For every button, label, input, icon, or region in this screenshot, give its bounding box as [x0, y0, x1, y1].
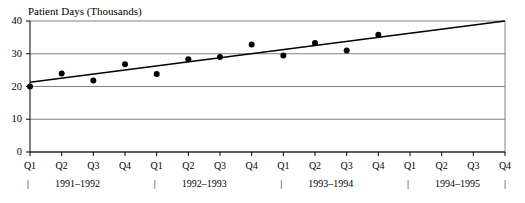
- x-tick-label: Q3: [461, 161, 485, 171]
- x-tick-label: Q4: [113, 161, 137, 171]
- year-group-separator: |: [405, 179, 411, 189]
- data-point: [154, 71, 160, 77]
- year-group-separator: |: [502, 179, 508, 189]
- data-point: [249, 42, 255, 48]
- year-group-label: 1994–1995: [418, 179, 498, 189]
- y-tick-label: 40: [0, 16, 22, 27]
- x-tick-label: Q2: [176, 161, 200, 171]
- data-point: [344, 47, 350, 53]
- x-tick-label: Q4: [366, 161, 390, 171]
- x-tick-label: Q2: [303, 161, 327, 171]
- trendline: [30, 21, 505, 82]
- trendline-segment: [30, 21, 505, 82]
- x-tick-label: Q3: [335, 161, 359, 171]
- gridlines-group: [30, 21, 505, 152]
- year-group-label: 1992–1993: [164, 179, 244, 189]
- data-points: [27, 32, 381, 90]
- chart-figure: Patient Days (Thousands) 010203040 Q1Q2Q…: [0, 0, 525, 203]
- x-tick-label: Q1: [145, 161, 169, 171]
- y-tick-label: 0: [0, 147, 22, 158]
- data-point: [312, 40, 318, 46]
- year-group-separator: |: [278, 179, 284, 189]
- chart-plot-area: [0, 0, 525, 203]
- data-point: [59, 70, 65, 76]
- x-tick-label: Q1: [398, 161, 422, 171]
- x-tick-label: Q4: [240, 161, 264, 171]
- y-tick-label: 30: [0, 49, 22, 60]
- x-tick-label: Q1: [271, 161, 295, 171]
- data-point: [27, 84, 33, 90]
- x-tick-label: Q1: [18, 161, 42, 171]
- x-tick-label: Q4: [493, 161, 517, 171]
- year-group-label: 1993–1994: [291, 179, 371, 189]
- y-tick-label: 10: [0, 114, 22, 125]
- data-point: [122, 61, 128, 67]
- x-tick-label: Q2: [50, 161, 74, 171]
- year-group-label: 1991–1992: [38, 179, 118, 189]
- data-point: [375, 32, 381, 38]
- y-tick-label: 20: [0, 82, 22, 93]
- data-point: [217, 54, 223, 60]
- x-tick-label: Q3: [81, 161, 105, 171]
- data-point: [185, 56, 191, 62]
- year-group-separator: |: [152, 179, 158, 189]
- year-group-separator: |: [25, 179, 31, 189]
- x-axis-ticks: [30, 152, 505, 156]
- x-tick-label: Q2: [430, 161, 454, 171]
- data-point: [90, 78, 96, 84]
- data-point: [280, 52, 286, 58]
- x-tick-label: Q3: [208, 161, 232, 171]
